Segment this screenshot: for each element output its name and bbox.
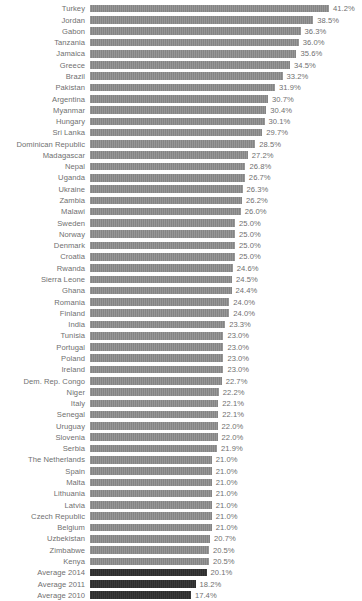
bar xyxy=(90,411,218,419)
bar-fill xyxy=(90,276,232,284)
bar-fill xyxy=(90,253,235,261)
category-label: Romania xyxy=(0,298,85,307)
bar-row: Dominican Republic28.5% xyxy=(0,139,362,150)
value-label: 21.0% xyxy=(216,523,238,532)
bar-row: Tanzania36.0% xyxy=(0,37,362,48)
bar-row: Poland23.0% xyxy=(0,353,362,364)
bar-fill xyxy=(90,377,222,385)
value-label: 30.7% xyxy=(272,95,294,104)
category-label: India xyxy=(0,320,85,329)
value-label: 24.0% xyxy=(233,298,255,307)
bar-row: Malta21.0% xyxy=(0,477,362,488)
value-label: 18.2% xyxy=(200,580,222,589)
bar-fill xyxy=(90,524,212,532)
bar-row: Uganda26.7% xyxy=(0,172,362,183)
bar-fill xyxy=(90,129,262,137)
bar xyxy=(90,230,235,238)
bar-row: Serbia21.9% xyxy=(0,443,362,454)
bar-fill xyxy=(90,118,265,126)
value-label: 23.0% xyxy=(227,343,249,352)
bar-fill xyxy=(90,242,235,250)
value-label: 41.2% xyxy=(333,4,355,13)
bar-fill xyxy=(90,343,223,351)
bar-row: Greece34.5% xyxy=(0,60,362,71)
bar-row: Ukraine26.3% xyxy=(0,184,362,195)
bar xyxy=(90,61,290,69)
bar-fill xyxy=(90,321,225,329)
bar-row: Finland24.0% xyxy=(0,308,362,319)
bar-row: Turkey41.2% xyxy=(0,3,362,14)
bar-fill xyxy=(90,230,235,238)
bar xyxy=(90,467,212,475)
bar-row: Ireland23.0% xyxy=(0,364,362,375)
value-label: 31.9% xyxy=(279,83,301,92)
bar xyxy=(90,512,212,520)
value-label: 34.5% xyxy=(294,61,316,70)
bar xyxy=(90,558,209,566)
category-label: Pakistan xyxy=(0,83,85,92)
bar xyxy=(90,309,229,317)
value-label: 26.3% xyxy=(247,185,269,194)
category-label: Lithuania xyxy=(0,489,85,498)
bar-fill xyxy=(90,558,209,566)
bar-fill xyxy=(90,456,212,464)
bar xyxy=(90,422,218,430)
category-label: Uruguay xyxy=(0,422,85,431)
bar xyxy=(90,456,212,464)
value-label: 35.6% xyxy=(300,49,322,58)
bar xyxy=(90,174,245,182)
bar-row: Portugal23.0% xyxy=(0,342,362,353)
category-label: Serbia xyxy=(0,444,85,453)
category-label: Tanzania xyxy=(0,38,85,47)
value-label: 21.0% xyxy=(216,455,238,464)
bar-fill xyxy=(90,490,212,498)
value-label: 24.4% xyxy=(236,286,258,295)
bar-row: Norway25.0% xyxy=(0,229,362,240)
bar xyxy=(90,163,245,171)
value-label: 21.9% xyxy=(221,444,243,453)
category-label: Niger xyxy=(0,388,85,397)
value-label: 36.0% xyxy=(303,38,325,47)
value-label: 24.6% xyxy=(237,264,259,273)
value-label: 27.2% xyxy=(252,151,274,160)
value-label: 21.0% xyxy=(216,467,238,476)
value-label: 20.7% xyxy=(214,534,236,543)
bar-row: Ghana24.4% xyxy=(0,285,362,296)
bar-fill xyxy=(90,174,245,182)
value-label: 23.3% xyxy=(229,320,251,329)
bar-row: The Netherlands21.0% xyxy=(0,454,362,465)
bar xyxy=(90,84,275,92)
bar-fill xyxy=(90,298,229,306)
bar-row: Sierra Leone24.5% xyxy=(0,274,362,285)
value-label: 26.8% xyxy=(249,162,271,171)
bar-row: Spain21.0% xyxy=(0,466,362,477)
category-label: Average 2014 xyxy=(0,568,85,577)
bar-fill xyxy=(90,354,223,362)
bar-row: Tunisia23.0% xyxy=(0,330,362,341)
category-label: Portugal xyxy=(0,343,85,352)
bar-row: Senegal22.1% xyxy=(0,409,362,420)
bar-fill xyxy=(90,197,242,205)
bar-row: Rwanda24.6% xyxy=(0,263,362,274)
horizontal-bar-chart: Turkey41.2%Jordan38.5%Gabon36.3%Tanzania… xyxy=(0,0,362,601)
category-label: Poland xyxy=(0,354,85,363)
bar xyxy=(90,129,262,137)
bar-fill xyxy=(90,433,218,441)
value-label: 21.0% xyxy=(216,501,238,510)
value-label: 25.0% xyxy=(239,219,261,228)
value-label: 24.0% xyxy=(233,309,255,318)
bar xyxy=(90,106,266,114)
bar-row: Myanmar30.4% xyxy=(0,105,362,116)
value-label: 30.1% xyxy=(269,117,291,126)
bar-fill xyxy=(90,479,212,487)
bar-fill xyxy=(90,61,290,69)
value-label: 25.0% xyxy=(239,230,261,239)
bar-row: Denmark25.0% xyxy=(0,240,362,251)
bar-fill xyxy=(90,287,232,295)
bar-row: Uruguay22.0% xyxy=(0,421,362,432)
category-label: Kenya xyxy=(0,557,85,566)
bar xyxy=(90,276,232,284)
bar-row: Uzbekistan20.7% xyxy=(0,533,362,544)
category-label: Average 2010 xyxy=(0,591,85,600)
value-label: 22.0% xyxy=(222,422,244,431)
